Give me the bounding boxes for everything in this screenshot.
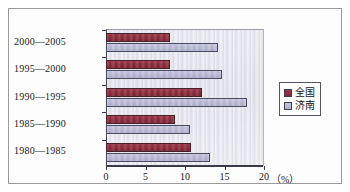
bar-national bbox=[106, 60, 170, 69]
x-axis-tick-label: 5 bbox=[134, 171, 158, 182]
x-axis-tick bbox=[185, 166, 186, 170]
legend-item-jinan: 济南 bbox=[284, 99, 315, 112]
y-axis-label: 1995—2000 bbox=[0, 63, 83, 74]
bar-national bbox=[106, 115, 175, 124]
bar-national bbox=[106, 143, 191, 152]
legend-swatch-national bbox=[284, 89, 292, 97]
x-axis-unit-label: （%） bbox=[271, 171, 299, 186]
bar-jinan bbox=[106, 125, 190, 134]
bar-national bbox=[106, 88, 202, 97]
legend-label-national: 全国 bbox=[295, 87, 315, 98]
x-axis-tick bbox=[264, 166, 265, 170]
y-axis-label: 1980—1985 bbox=[0, 145, 83, 156]
bar-jinan bbox=[106, 153, 210, 162]
bar-jinan bbox=[106, 43, 218, 52]
x-axis-tick-label: 15 bbox=[213, 171, 237, 182]
bar-jinan bbox=[106, 98, 247, 107]
bar-jinan bbox=[106, 70, 222, 79]
bar-national bbox=[106, 33, 170, 42]
y-axis-label: 1985—1990 bbox=[0, 118, 83, 129]
legend: 全国 济南 bbox=[279, 82, 321, 116]
y-axis-label: 2000—2005 bbox=[0, 36, 83, 47]
x-axis-tick bbox=[106, 166, 107, 170]
y-axis-label: 1990—1995 bbox=[0, 91, 83, 102]
figure: 2000—20051995—20001990—19951985—19901980… bbox=[0, 0, 350, 192]
figure-frame: 2000—20051995—20001990—19951985—19901980… bbox=[8, 8, 342, 184]
x-axis-tick-label: 0 bbox=[94, 171, 118, 182]
legend-item-national: 全国 bbox=[284, 86, 315, 99]
x-axis-tick-label: 10 bbox=[173, 171, 197, 182]
legend-label-jinan: 济南 bbox=[295, 100, 315, 111]
legend-swatch-jinan bbox=[284, 102, 292, 110]
x-axis-tick bbox=[225, 166, 226, 170]
x-axis-tick bbox=[146, 166, 147, 170]
